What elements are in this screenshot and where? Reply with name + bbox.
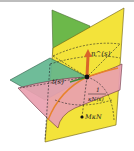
- radius-denominator: κN(s): [87, 96, 104, 102]
- center-point-label: MκN: [84, 113, 102, 121]
- radius-numerator: 1: [96, 86, 100, 93]
- tangent-vector-label: t(s): [52, 78, 64, 86]
- curvature-center-point: [80, 115, 83, 118]
- normal-vector-label: n^(s): [91, 50, 111, 58]
- normal-curvature-diagram: n^(s) t(s) 1 κN(s) MκN: [0, 0, 134, 151]
- curve-point: [85, 75, 90, 80]
